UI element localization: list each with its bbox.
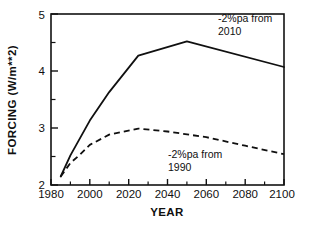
line-chart: 1980 2000 2020 2040 2060 2080 2100 2 3 4…	[0, 0, 309, 230]
annotation-solid-line2: 2010	[218, 25, 242, 37]
x-tick-label: 2080	[232, 188, 258, 200]
x-tick-label: 2060	[194, 188, 220, 200]
annotation-dashed-line2: 1990	[168, 161, 192, 173]
x-tick-label: 2020	[116, 188, 142, 200]
x-tick-label: 2000	[77, 188, 103, 200]
annotation-dashed-line1: -2%pa from	[168, 148, 223, 160]
x-tick-label: 2100	[269, 188, 295, 200]
y-tick-label: 4	[39, 65, 46, 77]
x-axis-title: YEAR	[150, 206, 184, 218]
x-axis-tick-labels: 1980 2000 2020 2040 2060 2080 2100	[38, 188, 295, 200]
y-tick-label: 3	[39, 122, 45, 134]
annotation-solid-series: -2%pa from 2010	[218, 12, 273, 37]
annotation-dashed-series: -2%pa from 1990	[168, 148, 223, 173]
chart-figure: 1980 2000 2020 2040 2060 2080 2100 2 3 4…	[0, 0, 309, 230]
y-tick-label: 5	[39, 9, 45, 21]
annotation-solid-line1: -2%pa from	[218, 12, 273, 24]
y-tick-label: 2	[39, 179, 45, 191]
y-axis-title: FORCING (W/m**2)	[6, 45, 18, 155]
x-axis-major-ticks	[51, 179, 284, 185]
y-axis-tick-labels: 2 3 4 5	[39, 9, 46, 191]
x-tick-label: 2040	[155, 188, 181, 200]
